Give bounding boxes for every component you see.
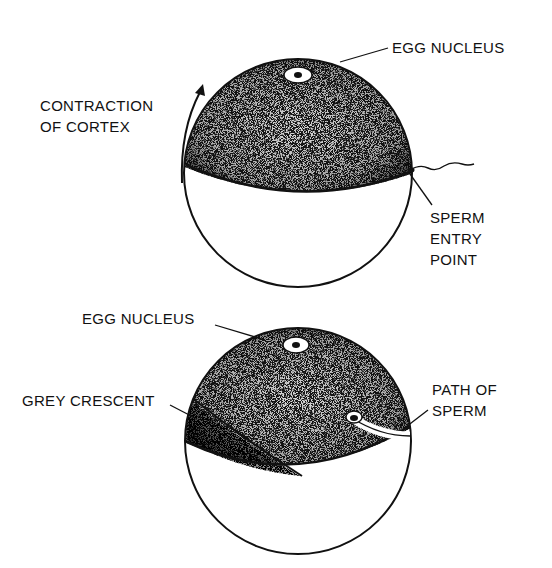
sperm-entry-label-line3: POINT [430, 250, 477, 269]
top-egg-nucleus-icon [284, 67, 312, 83]
contraction-label-line2: OF CORTEX [40, 117, 130, 136]
path-of-sperm-label-line2: SPERM [432, 401, 487, 420]
path-of-sperm-label-line1: PATH OF [432, 380, 497, 399]
sperm-entry-leader [410, 174, 432, 205]
contraction-label-line1: CONTRACTION [40, 96, 153, 115]
bottom-egg-nucleus-icon [283, 337, 309, 353]
top-egg-nucleus-label: EGG NUCLEUS [392, 38, 505, 57]
bottom-egg-nucleus-label: EGG NUCLEUS [82, 309, 195, 328]
sperm-entry-label-line1: SPERM [430, 208, 485, 227]
bottom-egg [170, 320, 428, 554]
bottom-egg-nucleus-leader [215, 325, 265, 340]
diagram-canvas [0, 0, 552, 568]
top-egg-nucleus-leader [340, 48, 388, 62]
grey-crescent-label: GREY CRESCENT [22, 391, 155, 410]
sperm-entry-label-line2: ENTRY [430, 229, 482, 248]
sperm-icon [408, 163, 475, 173]
